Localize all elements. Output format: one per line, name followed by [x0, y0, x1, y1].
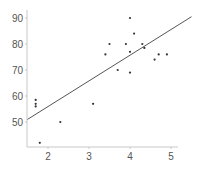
x-tick-label: 4 — [127, 151, 133, 162]
data-point — [158, 53, 160, 55]
data-point — [35, 105, 37, 107]
y-tick-label: 60 — [12, 91, 24, 102]
data-point — [133, 33, 135, 35]
data-point — [154, 59, 156, 61]
data-point — [35, 103, 37, 105]
y-tick-label: 90 — [12, 13, 24, 24]
tick-labels: 50607080902345 — [12, 13, 174, 163]
y-tick-label: 50 — [12, 117, 24, 128]
data-point — [59, 121, 61, 123]
x-tick-label: 5 — [168, 151, 174, 162]
data-point — [166, 53, 168, 55]
data-point — [35, 99, 37, 101]
data-point — [129, 51, 131, 53]
x-tick-label: 2 — [45, 151, 51, 162]
regression-line — [28, 17, 192, 120]
data-point — [143, 47, 145, 49]
data-points — [35, 17, 168, 144]
data-point — [117, 69, 119, 71]
data-point — [129, 17, 131, 19]
data-point — [39, 142, 41, 144]
data-point — [141, 43, 143, 45]
y-tick-label: 80 — [12, 39, 24, 50]
data-point — [92, 103, 94, 105]
axes — [25, 10, 178, 149]
scatter-chart: 50607080902345 — [0, 0, 206, 171]
x-tick-label: 3 — [86, 151, 92, 162]
data-point — [129, 72, 131, 74]
y-tick-label: 70 — [12, 65, 24, 76]
data-point — [104, 53, 106, 55]
data-point — [108, 43, 110, 45]
data-point — [125, 43, 127, 45]
trendline — [28, 17, 192, 120]
